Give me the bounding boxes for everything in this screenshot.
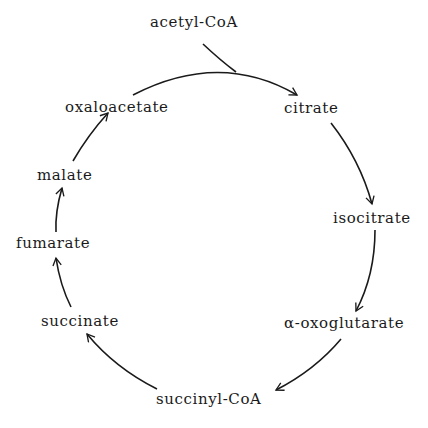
- node-succinyl-coa: succinyl-CoA: [156, 392, 262, 407]
- node-malate: malate: [37, 168, 92, 183]
- arrow-fumarate-to-malate: [56, 188, 62, 232]
- node-fumarate: fumarate: [16, 236, 90, 251]
- arrow-isocitrate-to-oxoglutarate: [356, 230, 375, 311]
- node-citrate: citrate: [284, 101, 338, 116]
- citric-acid-cycle-diagram: acetyl-CoA citrate isocitrate α-oxogluta…: [0, 0, 428, 428]
- node-alpha-oxoglutarate: α-oxoglutarate: [284, 316, 404, 331]
- arrow-oxoglutarate-to-succinylcoa: [276, 339, 341, 390]
- node-acetyl-coa: acetyl-CoA: [150, 15, 238, 30]
- node-oxaloacetate: oxaloacetate: [65, 100, 169, 115]
- arrow-acetylcoa-join: [203, 44, 236, 72]
- arrow-citrate-to-isocitrate: [331, 123, 372, 204]
- arrow-succinylcoa-to-succinate: [87, 334, 157, 389]
- arrow-oxaloacetate-to-citrate: [133, 73, 297, 96]
- node-isocitrate: isocitrate: [333, 211, 411, 226]
- arrow-succinate-to-fumarate: [56, 258, 71, 307]
- arrow-malate-to-oxaloacetate: [73, 113, 108, 161]
- node-succinate: succinate: [41, 314, 119, 329]
